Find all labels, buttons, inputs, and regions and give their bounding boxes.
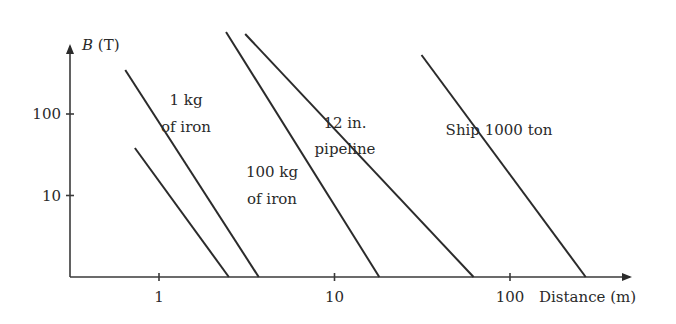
x-tick-label: 100 — [496, 288, 525, 306]
y-axis-label: B (T) — [81, 36, 120, 54]
chart: B (T) Distance (m) 11010010100 1 kgof ir… — [0, 0, 676, 324]
series-annotation: 100 kg — [246, 163, 298, 181]
series-annotation: pipeline — [314, 140, 375, 158]
x-axis-label: Distance (m) — [539, 288, 636, 306]
x-tick-label: 1 — [154, 288, 164, 306]
series-annotation: of iron — [161, 118, 211, 136]
y-tick-label: 10 — [42, 187, 61, 205]
series-line-small-iron-object — [135, 148, 229, 277]
series-annotation: Ship 1000 ton — [446, 121, 553, 139]
series-line-ship-1000-ton — [422, 55, 586, 277]
y-tick-label: 100 — [32, 105, 61, 123]
series-annotation: of iron — [247, 190, 297, 208]
x-tick-label: 10 — [325, 288, 344, 306]
y-axis-label-unit: (T) — [93, 36, 119, 54]
series-annotation: 1 kg — [169, 91, 202, 109]
series-annotation: 12 in. — [323, 114, 366, 132]
y-axis-label-symbol: B — [81, 36, 93, 54]
